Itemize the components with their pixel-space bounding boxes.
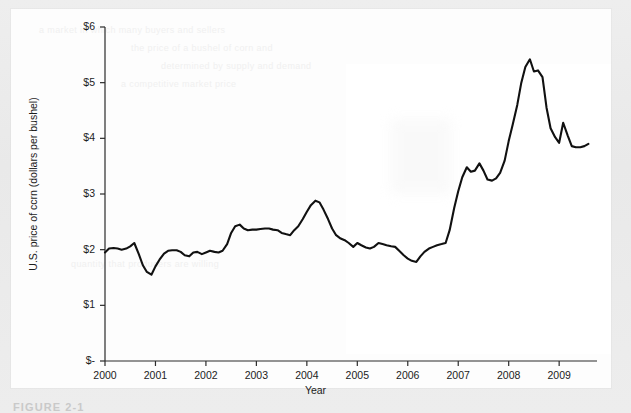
y-axis-tick-label: $2	[29, 243, 95, 255]
figure-caption: FIGURE 2-1	[13, 401, 85, 413]
x-axis-tick-label: 2009	[529, 369, 589, 381]
paper-texture-blotch	[346, 64, 611, 354]
y-axis-tick-label: $4	[29, 131, 95, 143]
y-axis-tick-label: $5	[29, 76, 95, 88]
y-axis-tick-label: $1	[29, 298, 95, 310]
bleedthrough-text: quantity that producers are willing	[71, 259, 219, 269]
bleedthrough-text: the price of a bushel of corn and	[131, 43, 273, 53]
y-axis-tick-label: $3	[29, 187, 95, 199]
paper-texture-smudge	[391, 119, 451, 194]
y-axis-tick-label: $6	[29, 20, 95, 32]
x-axis-title: Year	[0, 384, 631, 396]
figure-panel: a market in which many buyers and seller…	[11, 9, 611, 388]
screenshot-root: a market in which many buyers and seller…	[0, 0, 631, 413]
bleedthrough-text: determined by supply and demand	[161, 61, 312, 71]
y-axis-tick-label: $-	[29, 354, 95, 366]
bleedthrough-text: a competitive market price	[121, 79, 236, 89]
